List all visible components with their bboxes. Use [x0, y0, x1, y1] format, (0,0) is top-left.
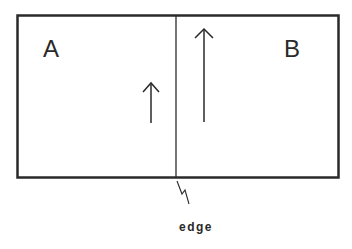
edge-diagram: A B edge [0, 0, 352, 249]
region-label-a: A [43, 35, 59, 62]
arrow-b [195, 29, 213, 122]
edge-label: edge [179, 220, 213, 234]
region-label-b: B [284, 35, 300, 62]
arrow-a [143, 83, 159, 123]
edge-callout-leader [177, 181, 189, 204]
